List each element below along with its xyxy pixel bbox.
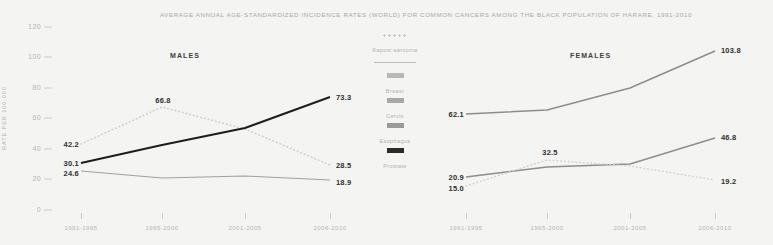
panel-females: FEMALES 62.1 20.9 15.0 32.5 103.8 46.8 1…	[440, 0, 740, 245]
x-tick-mark-4	[715, 213, 716, 219]
legend-swatch-prostate-icon	[387, 148, 404, 153]
value-label-esophagus-end: 18.9	[336, 178, 351, 187]
x-tick-mark-4	[330, 213, 331, 219]
series-line-prostate-males	[81, 97, 330, 163]
y-tick-dash	[44, 56, 52, 57]
x-tick-mark-1	[81, 213, 82, 219]
y-tick-80: 80	[32, 84, 52, 91]
y-tick-dash	[44, 87, 52, 88]
series-line-breast-females	[466, 138, 715, 177]
x-tick-mark-1	[466, 213, 467, 219]
legend-swatch-esophagus-icon	[387, 123, 404, 128]
legend-swatch-rule-icon	[374, 62, 416, 63]
series-line-esophagus-males	[81, 171, 330, 180]
x-tick-label-2: 1995-2000	[530, 225, 563, 231]
legend-label-breast: Breast	[386, 88, 404, 94]
legend-item-cervix[interactable]: Cervix	[355, 98, 435, 122]
y-tick-dash	[44, 209, 52, 210]
legend-label-esophagus: Esophagus	[379, 138, 410, 144]
value-label-prostate-end: 73.3	[336, 93, 351, 102]
x-tick-mark-3	[245, 213, 246, 219]
value-label-kaposi-start: 42.2	[64, 140, 79, 149]
y-tick-100: 100	[28, 53, 52, 60]
y-tick-dash	[44, 117, 52, 118]
value-label-breast-end: 46.8	[721, 133, 736, 142]
x-tick-label-1: 1991-1995	[449, 225, 482, 231]
value-label-esophagus-start: 24.6	[64, 169, 79, 178]
y-tick-40: 40	[32, 145, 52, 152]
y-tick-dash	[44, 148, 52, 149]
value-label-kaposi-peak: 32.5	[542, 148, 557, 157]
legend-rule-divider	[355, 62, 435, 63]
females-plot-area: 62.1 20.9 15.0 32.5 103.8 46.8 19.2 1991…	[440, 0, 740, 245]
series-line-cervix-females	[466, 51, 715, 114]
x-tick-mark-3	[630, 213, 631, 219]
y-tick-20: 20	[32, 175, 52, 182]
legend-swatch-cervix-icon	[387, 98, 404, 103]
value-label-prostate-start: 30.1	[64, 159, 79, 168]
males-lines	[55, 0, 355, 245]
panel-males: MALES 42.2 30.1 24.6 66.8 73.3 28.5 18.9	[55, 0, 355, 245]
legend-item-prostate[interactable]: Prostate	[355, 148, 435, 172]
value-label-breast-start: 20.9	[449, 173, 464, 182]
value-label-kaposi-start: 15.0	[449, 184, 464, 193]
chart-legend: Kaposi sarcoma Breast Cervix Esophagus P…	[355, 34, 435, 173]
x-tick-label-1: 1991-1995	[64, 225, 97, 231]
legend-item-breast[interactable]: Breast	[355, 73, 435, 97]
legend-item-esophagus[interactable]: Esophagus	[355, 123, 435, 147]
legend-label-prostate: Prostate	[383, 163, 407, 169]
x-tick-label-4: 2006-2010	[698, 225, 731, 231]
legend-spacer	[355, 64, 435, 73]
females-lines	[440, 0, 740, 245]
value-label-kaposi-end: 19.2	[721, 177, 736, 186]
value-label-cervix-end: 103.8	[721, 46, 741, 55]
legend-swatch-breast-icon	[387, 73, 404, 78]
y-tick-0: 0	[37, 206, 52, 213]
y-axis-label: RATE PER 100,000	[1, 86, 7, 150]
x-tick-mark-2	[162, 213, 163, 219]
y-axis: 0 20 40 60 80 100 120 RATE PER 100,000	[0, 0, 60, 245]
y-tick-dash	[44, 178, 52, 179]
y-tick-120: 120	[28, 23, 52, 30]
x-tick-mark-2	[547, 213, 548, 219]
x-tick-label-4: 2006-2010	[313, 225, 346, 231]
legend-item-kaposi[interactable]: Kaposi sarcoma	[355, 34, 435, 56]
x-tick-label-3: 2001-2005	[228, 225, 261, 231]
males-plot-area: 42.2 30.1 24.6 66.8 73.3 28.5 18.9 1991-…	[55, 0, 355, 245]
legend-label-cervix: Cervix	[386, 113, 404, 119]
x-tick-label-2: 1995-2000	[145, 225, 178, 231]
value-label-kaposi-end: 28.5	[336, 161, 351, 170]
legend-label-kaposi: Kaposi sarcoma	[372, 47, 417, 53]
value-label-cervix-start: 62.1	[449, 110, 464, 119]
chart-canvas: AVERAGE ANNUAL AGE-STANDARDIZED INCIDENC…	[0, 0, 773, 245]
y-tick-dash	[44, 26, 52, 27]
value-label-kaposi-peak: 66.8	[155, 96, 170, 105]
x-tick-label-3: 2001-2005	[613, 225, 646, 231]
legend-swatch-dotted-icon	[382, 34, 408, 37]
y-tick-60: 60	[32, 114, 52, 121]
